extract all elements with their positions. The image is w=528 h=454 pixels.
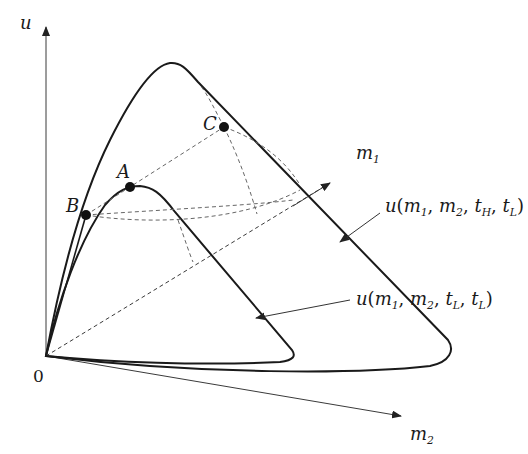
arg: t [474,195,481,216]
leader-high [340,213,380,242]
curve-label-low-prefix: u [356,288,368,309]
arg-sub: L [479,299,486,312]
arg-sub: 2 [456,206,463,219]
point-a [125,182,135,192]
m1-base: m [356,142,373,163]
u-axis-label: u [20,14,32,32]
arg: m [404,195,421,216]
m2-axis-label: m2 [410,425,434,447]
m2-base: m [410,423,427,444]
point-b-label: B [66,197,79,215]
point-b [81,210,91,220]
axes [46,27,401,416]
curve-label-high: u(m1, m2, tH, tL) [385,197,524,219]
origin-label: 0 [33,368,44,385]
arg: m [439,195,456,216]
arg-sub: 1 [421,206,428,219]
point-c-label: C [203,115,217,133]
arg-sub: L [453,299,460,312]
arg: t [471,288,478,309]
m2-sub: 2 [427,434,434,447]
arg-sub: H [482,206,491,219]
diagram-svg [0,0,528,454]
point-c [219,122,229,132]
diagram-canvas: u 0 m1 m2 A B C u(m1, m2, tH, tL) u(m1, … [0,0,528,454]
points [81,122,229,220]
dashed-b-to-c [86,127,224,215]
curve-label-low: u(m1, m2, tL, tL) [356,290,493,312]
arg: m [410,288,427,309]
arg-sub: L [510,206,517,219]
dashed-a-down [178,220,193,262]
arg: t [503,195,510,216]
arg-sub: 2 [427,299,434,312]
m1-sub: 1 [373,153,380,166]
leader-low [256,300,350,318]
surface-low-edge [46,215,86,356]
arg: m [375,288,392,309]
point-a-label: A [117,163,130,181]
m2-axis [46,356,401,416]
m1-axis-label: m1 [356,144,380,166]
arg-sub: 1 [392,299,399,312]
dashed-b-arc-2 [86,200,293,215]
curve-label-high-prefix: u [385,195,397,216]
arg: t [445,288,452,309]
m1-axis [46,183,330,356]
